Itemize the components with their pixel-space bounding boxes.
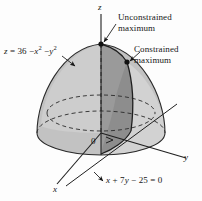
- constrained-maximum-line-1: Constrained: [134, 44, 179, 55]
- origin-label: 0: [91, 136, 96, 146]
- constraint-eq-zero: 0: [158, 175, 163, 185]
- surface-equation-label: z = 36 −x2 −y2: [4, 46, 57, 57]
- figure-container: z = 36 −x2 −y2 Unconstrained maximum Con…: [0, 0, 202, 201]
- constraint-eq-constant: 25: [139, 175, 148, 185]
- x-axis-label: x: [53, 184, 57, 194]
- unconstrained-maximum-line-2: maximum: [118, 23, 172, 34]
- constrained-maximum-point: [124, 59, 129, 64]
- constraint-eq-minus: −: [131, 175, 136, 185]
- surface-eq-exp-y: 2: [53, 44, 56, 51]
- leader-unconstrained-maximum: [104, 24, 116, 42]
- surface-eq-exp-x: 2: [38, 44, 41, 51]
- z-axis-label: z: [98, 2, 102, 12]
- constraint-eq-plus: +: [112, 175, 117, 185]
- constrained-maximum-line-2: maximum: [134, 55, 179, 66]
- surface-eq-lhs: z: [4, 46, 8, 56]
- constraint-eq-term-x: x: [106, 175, 110, 185]
- constraint-equation-label: x + 7y − 25 = 0: [106, 175, 162, 186]
- surface-eq-constant: 36: [18, 46, 27, 56]
- leader-constraint-equation: [94, 172, 103, 181]
- unconstrained-maximum-label: Unconstrained maximum: [118, 12, 172, 33]
- y-axis-label: y: [184, 152, 188, 162]
- constraint-eq-equals: =: [150, 175, 155, 185]
- constrained-maximum-label: Constrained maximum: [134, 44, 179, 65]
- unconstrained-maximum-point: [98, 41, 103, 46]
- constraint-eq-term-y: y: [125, 175, 129, 185]
- unconstrained-maximum-line-1: Unconstrained: [118, 12, 172, 23]
- surface-eq-equals: =: [10, 46, 15, 56]
